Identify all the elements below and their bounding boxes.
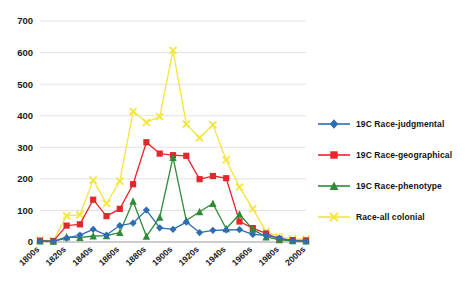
svg-text:1880s: 1880s bbox=[123, 244, 147, 268]
svg-text:100: 100 bbox=[17, 205, 33, 216]
svg-text:1960s: 1960s bbox=[230, 244, 254, 268]
x-axis-tick-labels: 1800s1820s1840s1860s1880s1900s1920s1940s… bbox=[17, 244, 307, 268]
line-chart: 01002003004005006007001800s1820s1840s186… bbox=[0, 0, 466, 290]
svg-text:1900s: 1900s bbox=[150, 244, 174, 268]
svg-text:200: 200 bbox=[17, 173, 33, 184]
legend-item-phenotype: 19C Race-phenotype bbox=[318, 170, 466, 201]
legend-key-diamond-icon bbox=[318, 117, 350, 131]
legend-key-x-icon bbox=[318, 210, 350, 224]
legend-label: 19C Race-phenotype bbox=[356, 181, 442, 191]
svg-text:400: 400 bbox=[17, 110, 33, 121]
y-axis-tick-labels: 0100200300400500600700 bbox=[17, 15, 33, 247]
legend-label: 19C Race-judgmental bbox=[356, 119, 444, 129]
legend-item-geographical: 19C Race-geographical bbox=[318, 139, 466, 170]
svg-text:1980s: 1980s bbox=[256, 244, 280, 268]
svg-text:700: 700 bbox=[17, 15, 33, 26]
legend-key-triangle-icon bbox=[318, 179, 350, 193]
svg-text:600: 600 bbox=[17, 47, 33, 58]
legend-label: 19C Race-geographical bbox=[356, 150, 452, 160]
svg-text:2000s: 2000s bbox=[283, 244, 307, 268]
svg-text:1800s: 1800s bbox=[17, 244, 41, 268]
legend-label: Race-all colonial bbox=[356, 212, 425, 222]
svg-text:1920s: 1920s bbox=[177, 244, 201, 268]
chart-legend: 19C Race-judgmental 19C Race-geographica… bbox=[318, 108, 466, 232]
svg-text:300: 300 bbox=[17, 142, 33, 153]
svg-text:1860s: 1860s bbox=[97, 244, 121, 268]
series-line bbox=[37, 47, 310, 244]
legend-item-judgmental: 19C Race-judgmental bbox=[318, 108, 466, 139]
legend-key-square-icon bbox=[318, 148, 350, 162]
svg-text:1820s: 1820s bbox=[44, 244, 68, 268]
svg-text:1840s: 1840s bbox=[70, 244, 94, 268]
legend-item-colonial: Race-all colonial bbox=[318, 201, 466, 232]
svg-text:1940s: 1940s bbox=[203, 244, 227, 268]
svg-text:500: 500 bbox=[17, 79, 33, 90]
